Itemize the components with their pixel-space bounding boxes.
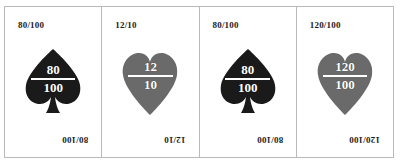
card-fraction: 12 10 [119, 60, 181, 92]
fraction-denominator: 100 [22, 81, 84, 95]
card-pip-area: 120 100 [297, 43, 393, 123]
card-row-figure: 80/100 80 100 80/100 12/10 [4, 6, 394, 158]
card-pip-area: 80 100 [5, 43, 101, 123]
fraction-numerator: 120 [314, 60, 376, 74]
card-pip: 80 100 [22, 47, 84, 119]
card-corner-label-bottom: 80/100 [62, 135, 88, 145]
card-corner-label-bottom: 120/100 [349, 135, 380, 145]
fraction-denominator: 100 [314, 78, 376, 92]
fraction-denominator: 100 [217, 81, 279, 95]
fraction-numerator: 80 [22, 63, 84, 77]
fraction-numerator: 80 [217, 63, 279, 77]
card-corner-label-top: 12/10 [115, 20, 137, 30]
card-corner-label-bottom: 80/100 [257, 135, 283, 145]
fraction-numerator: 12 [119, 60, 181, 74]
card-corner-label-top: 120/100 [310, 20, 341, 30]
playing-card[interactable]: 12/10 12 10 12/10 [102, 7, 199, 157]
card-pip-area: 12 10 [102, 43, 198, 123]
playing-card[interactable]: 80/100 80 100 80/100 [200, 7, 297, 157]
card-corner-label-top: 80/100 [18, 20, 44, 30]
card-pip: 80 100 [217, 47, 279, 119]
card-corner-label-top: 80/100 [213, 20, 239, 30]
card-fraction: 80 100 [22, 63, 84, 95]
card-pip-area: 80 100 [200, 43, 296, 123]
card-fraction: 120 100 [314, 60, 376, 92]
playing-card[interactable]: 80/100 80 100 80/100 [5, 7, 102, 157]
card-pip: 12 10 [119, 47, 181, 119]
card-fraction: 80 100 [217, 63, 279, 95]
fraction-denominator: 10 [119, 78, 181, 92]
card-corner-label-bottom: 12/10 [164, 135, 186, 145]
playing-card[interactable]: 120/100 120 100 120/100 [297, 7, 393, 157]
card-pip: 120 100 [314, 47, 376, 119]
